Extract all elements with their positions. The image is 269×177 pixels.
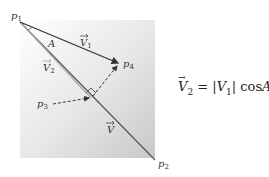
label-p2: p2 [158,158,169,171]
projection-equation: → V2 = |V1| cosA [178,79,269,97]
shaded-plane [20,20,155,158]
label-p1: p1 [11,10,22,23]
label-angle-a: A [47,38,55,49]
vector-arrow-icon: → [178,72,186,82]
